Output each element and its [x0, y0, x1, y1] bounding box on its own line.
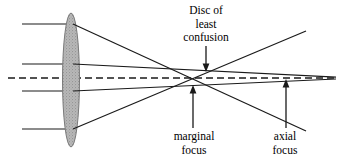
- label-marginal-focus: marginal focus: [152, 130, 236, 157]
- axial-focus-arrowhead-icon: [283, 79, 290, 88]
- label-disc-line-3: confusion: [164, 31, 248, 45]
- optics-diagram: Disc of least confusion marginal focus a…: [0, 0, 339, 163]
- label-disc-of-least-confusion: Disc of least confusion: [164, 4, 248, 45]
- label-axial-line-2: focus: [252, 144, 318, 158]
- label-disc-line-1: Disc of: [164, 4, 248, 18]
- refracted-ray-paraxial-lower: [73, 79, 336, 91]
- label-axial-focus: axial focus: [252, 130, 318, 157]
- label-marginal-line-1: marginal: [152, 130, 236, 144]
- marginal-focus-arrowhead-icon: [190, 85, 197, 94]
- label-disc-line-2: least: [164, 18, 248, 32]
- label-axial-line-1: axial: [252, 130, 318, 144]
- label-marginal-line-2: focus: [152, 144, 236, 158]
